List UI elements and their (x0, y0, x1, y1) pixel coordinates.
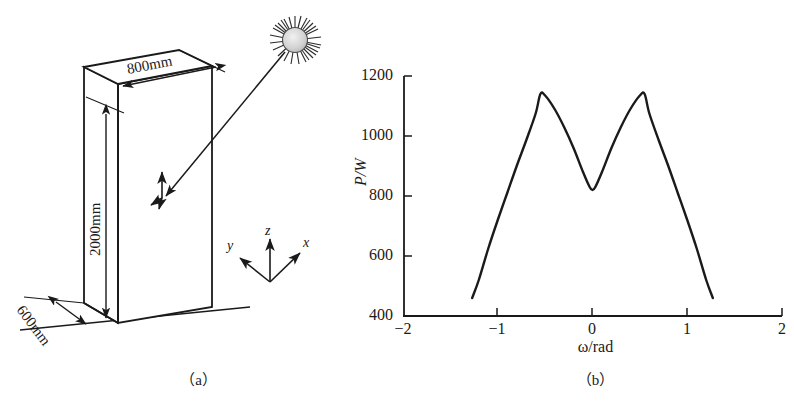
xtick-label-zero: 0 (572, 320, 612, 338)
caption-panel-a: （a） (0, 368, 397, 389)
ytick-label-1000: 1000 (349, 126, 393, 144)
dim-600-ext-line (24, 297, 84, 303)
ytick-label-1200: 1200 (349, 66, 393, 84)
sun-disc (283, 28, 308, 53)
axis-letter-y: y (225, 238, 234, 253)
dim-600-arrow (56, 302, 86, 324)
panel-a-diagram: 800mm 2000mm 600mm (0, 0, 397, 407)
axis-arrow-x (270, 253, 300, 282)
y-axis-ticks (404, 76, 412, 256)
dim-600-label: 600mm (14, 302, 55, 349)
x-axis-ticks (497, 308, 782, 316)
xtick-label-two: 2 (762, 320, 794, 338)
caption-panel-b: （b） (397, 368, 794, 389)
dim-2000-label: 2000mm (87, 202, 103, 256)
ytick-label-600: 600 (349, 246, 393, 264)
xtick-label-minus2: −2 (383, 320, 423, 338)
panel-a-svg: 800mm 2000mm 600mm (0, 0, 397, 407)
axis-letter-x: x (302, 235, 310, 250)
power-curve (472, 92, 713, 298)
xtick-label-one: 1 (667, 320, 707, 338)
xtick-label-minus1: −1 (477, 320, 517, 338)
box-front-face (118, 66, 212, 323)
x-axis-title: ω/rad (397, 338, 794, 356)
figure-root: 800mm 2000mm 600mm (0, 0, 794, 407)
ytick-label-800: 800 (349, 186, 393, 204)
axis-letter-z: z (264, 223, 271, 238)
sun-icon (270, 16, 321, 64)
coordinate-axes-triad: x y z (225, 223, 310, 282)
y-axis-title: P/W (352, 158, 370, 186)
box-side-face (84, 67, 118, 323)
axis-arrow-y (240, 258, 270, 282)
